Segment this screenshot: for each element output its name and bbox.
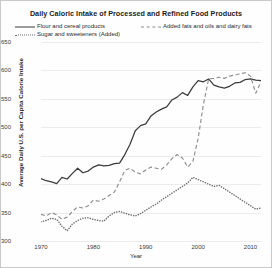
x-axis-tick-label: 1990: [126, 244, 166, 250]
chart-figure: Daily Caloric Intake of Processed and Re…: [0, 0, 272, 268]
x-axis-ticks: 19701980199020002010: [1, 1, 272, 268]
x-axis-tick-label: 2000: [178, 244, 218, 250]
x-axis-tick-label: 1970: [21, 244, 61, 250]
x-axis-tick-label: 1980: [73, 244, 113, 250]
x-axis-label: Year: [1, 253, 271, 259]
x-axis-tick-label: 2010: [231, 244, 271, 250]
y-axis-label: Average Daily U.S. per Capita Calorie In…: [17, 48, 24, 198]
